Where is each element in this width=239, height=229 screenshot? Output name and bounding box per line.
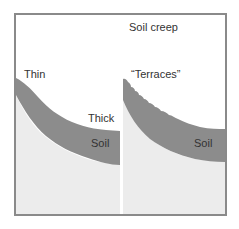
diagram-title: Soil creep [129, 21, 178, 33]
right-soil-label: Soil [194, 137, 212, 149]
panel-divider [120, 14, 123, 215]
diagram-graphic [0, 0, 239, 229]
left-soil-label: Soil [91, 137, 109, 149]
thin-label: Thin [24, 68, 45, 80]
thick-label: Thick [88, 112, 114, 124]
soil-creep-diagram: Soil creep Thin Thick Soil “Terraces” So… [0, 0, 239, 229]
terraces-label: “Terraces” [131, 68, 181, 80]
